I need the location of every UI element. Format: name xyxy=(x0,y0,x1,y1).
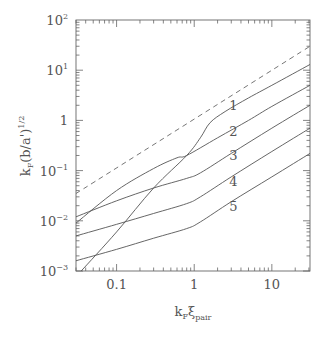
curve-label: 2 xyxy=(229,124,237,139)
log-log-chart: 0.1110102101110−110−210−3 12345 kFξpair … xyxy=(0,0,327,337)
curve-labels: 12345 xyxy=(229,98,237,213)
plot-frame xyxy=(76,20,310,271)
series-3 xyxy=(76,105,310,217)
x-tick-label: 10 xyxy=(264,277,281,292)
y-tick-label: 101 xyxy=(46,62,68,78)
y-tick-label: 10−3 xyxy=(40,263,68,279)
y-tick-label: 102 xyxy=(46,12,68,28)
y-tick-label: 1 xyxy=(60,113,68,128)
plot-border xyxy=(76,20,310,271)
curve-label: 5 xyxy=(229,199,237,214)
y-axis-title: kF(b/a')1/2 xyxy=(17,116,35,177)
series-dashed xyxy=(76,46,310,193)
series-1 xyxy=(81,64,310,271)
series-5 xyxy=(76,153,310,260)
curve-label: 3 xyxy=(229,148,237,163)
x-axis-title: kFξpair xyxy=(175,304,212,322)
curve-label: 1 xyxy=(229,98,237,113)
series-4 xyxy=(76,128,310,236)
x-tick-label: 1 xyxy=(190,277,198,292)
data-series xyxy=(76,46,310,271)
y-tick-label: 10−2 xyxy=(40,213,68,229)
y-tick-label: 10−1 xyxy=(40,163,68,179)
x-tick-label: 0.1 xyxy=(106,277,127,292)
axis-ticks: 0.1110102101110−110−210−3 xyxy=(40,12,310,292)
curve-label: 4 xyxy=(229,174,237,189)
